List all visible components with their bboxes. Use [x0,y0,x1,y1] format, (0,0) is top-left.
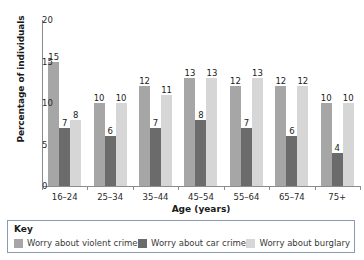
bar: 13 [206,78,217,186]
x-axis-tick-mark [269,186,270,190]
bar-group: 12612 [269,20,314,186]
bar: 10 [321,103,332,186]
plot-bars-container: 1578106101271113813127131261210410 [42,20,360,186]
x-axis-category-label: 65–74 [279,192,305,202]
x-axis-category-label: 45–54 [188,192,214,202]
bar: 11 [161,95,172,186]
bar: 7 [241,128,252,186]
y-axis-tick-label: 10 [42,98,53,108]
bar-value-label: 6 [107,126,112,136]
y-axis-tick-label: 5 [42,140,47,150]
bar-group: 12711 [133,20,178,186]
legend-item: Worry about violent crime [14,238,138,248]
x-axis-category-label: 35–44 [143,192,169,202]
bar-value-label: 7 [62,118,67,128]
x-axis-category-label: 55–64 [233,192,259,202]
bar: 12 [139,86,150,186]
bar: 4 [332,153,343,186]
bar-value-label: 4 [335,143,340,153]
bar-group: 13813 [178,20,223,186]
legend-color-swatch [138,239,147,248]
x-axis-tick-mark [360,186,361,190]
legend-item-label: Worry about car crime [151,238,246,248]
bar-value-label: 10 [343,93,354,103]
bar-value-label: 12 [275,76,286,86]
bar: 10 [116,103,127,186]
legend-items: Worry about violent crimeWorry about car… [14,238,350,248]
bar: 7 [150,128,161,186]
bar-chart-figure: Percentage of individuals 15781061012711… [0,0,364,260]
x-axis-tick-mark [178,186,179,190]
x-axis-line [42,186,360,187]
bar: 15 [48,62,59,187]
bar-value-label: 7 [244,118,249,128]
x-axis-category-label: 25–34 [97,192,123,202]
x-axis-tick-mark [87,186,88,190]
bar-group-bars: 12711 [133,20,178,186]
x-axis-label: Age (years) [42,204,360,214]
bar-group-bars: 10410 [315,20,360,186]
x-axis-tick-mark [42,186,43,190]
bar: 12 [297,86,308,186]
bar-value-label: 10 [116,93,127,103]
bar: 10 [343,103,354,186]
x-axis-tick-mark [315,186,316,190]
bar-value-label: 10 [321,93,332,103]
bar-value-label: 8 [198,110,203,120]
bar: 8 [70,120,81,186]
legend-box: Key Worry about violent crimeWorry about… [7,220,355,253]
bar: 13 [252,78,263,186]
y-axis-tick-label: 20 [42,15,53,25]
bar: 6 [105,136,116,186]
bar-value-label: 13 [252,68,263,78]
bar: 12 [275,86,286,186]
bar-group-bars: 13813 [178,20,223,186]
y-axis-label: Percentage of individuals [16,0,26,164]
legend-item: Worry about burglary [246,238,350,248]
bar-group: 10610 [87,20,132,186]
bar: 8 [195,120,206,186]
bar-value-label: 13 [185,68,196,78]
bar-group-bars: 12612 [269,20,314,186]
bar-value-label: 6 [289,126,294,136]
x-axis-tick-mark [224,186,225,190]
bar-group: 12713 [224,20,269,186]
legend-title: Key [14,224,33,234]
bar-value-label: 8 [73,110,78,120]
bar-value-label: 10 [94,93,105,103]
bar-value-label: 11 [161,85,172,95]
bar: 12 [230,86,241,186]
bar-group-bars: 10610 [87,20,132,186]
bar-value-label: 12 [230,76,241,86]
bar: 6 [286,136,297,186]
bar-value-label: 13 [207,68,218,78]
bar-value-label: 12 [297,76,308,86]
legend-color-swatch [14,239,23,248]
chart-plot-area: Percentage of individuals 15781061012711… [0,8,364,216]
legend-item: Worry about car crime [138,238,246,248]
x-axis-category-label: 75+ [328,192,346,202]
bar: 7 [59,128,70,186]
bar: 10 [94,103,105,186]
legend-item-label: Worry about burglary [259,238,350,248]
bar-value-label: 12 [139,76,150,86]
legend-item-label: Worry about violent crime [27,238,138,248]
bar-group-bars: 12713 [224,20,269,186]
bar-value-label: 7 [153,118,158,128]
x-axis-tick-mark [133,186,134,190]
bar-group: 10410 [315,20,360,186]
y-axis-tick-label: 15 [42,57,53,67]
bar: 13 [184,78,195,186]
x-axis-category-label: 16–24 [52,192,78,202]
legend-color-swatch [246,239,255,248]
